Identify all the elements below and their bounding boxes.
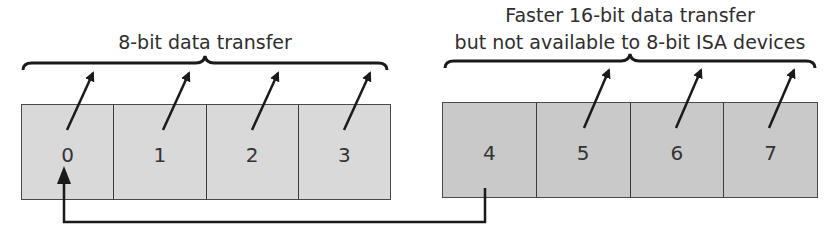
dma-channel-4: 4 xyxy=(443,103,537,197)
dma-channel-0: 0 xyxy=(22,105,114,199)
title-8bit-transfer: 8-bit data transfer xyxy=(118,31,292,53)
title-16bit-transfer-line1: Faster 16-bit data transfer xyxy=(505,4,754,26)
dma-channel-6: 6 xyxy=(631,103,725,197)
dma-channel-5: 5 xyxy=(537,103,631,197)
dma-channel-2: 2 xyxy=(207,105,299,199)
brace-16bit xyxy=(445,54,815,68)
dma-block-8bit: 0 1 2 3 xyxy=(21,104,391,200)
brace-8bit xyxy=(23,56,387,70)
dma-channel-1: 1 xyxy=(114,105,206,199)
dma-block-16bit: 4 5 6 7 xyxy=(442,102,818,198)
title-16bit-transfer-line2: but not available to 8-bit ISA devices xyxy=(455,31,806,53)
dma-channel-7: 7 xyxy=(724,103,817,197)
dma-channel-3: 3 xyxy=(299,105,390,199)
